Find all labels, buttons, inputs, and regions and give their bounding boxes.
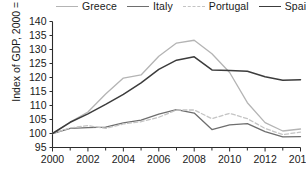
line-chart: Greece Italy Portugal Spain Index of GDP…	[0, 0, 306, 171]
x-axis-ticks: 20002002200420062008201020122014	[41, 148, 306, 165]
plot-area: 95100105110115120125130135140 2000200220…	[0, 0, 306, 171]
x-tick-label: 2000	[41, 153, 65, 165]
x-tick-label: 2014	[289, 153, 306, 165]
y-tick-label: 110	[30, 99, 47, 111]
x-tick-label: 2008	[183, 153, 207, 165]
y-axis-ticks: 95100105110115120125130135140	[29, 15, 53, 153]
y-tick-label: 95	[35, 141, 47, 153]
x-tick-label: 2004	[112, 153, 136, 165]
y-tick-label: 130	[29, 43, 47, 55]
data-series-group	[53, 40, 301, 137]
y-tick-label: 140	[29, 15, 47, 27]
y-tick-label: 100	[29, 127, 47, 139]
series-line-spain	[53, 57, 301, 134]
x-tick-label: 2010	[218, 153, 242, 165]
x-tick-label: 2012	[253, 153, 277, 165]
y-tick-label: 120	[29, 71, 47, 83]
x-tick-label: 2002	[76, 153, 100, 165]
x-tick-label: 2006	[147, 153, 171, 165]
y-tick-label: 125	[29, 57, 47, 69]
y-tick-label: 105	[29, 113, 47, 125]
y-tick-label: 115	[30, 85, 47, 97]
series-line-greece	[53, 40, 301, 133]
y-tick-label: 135	[29, 29, 47, 41]
